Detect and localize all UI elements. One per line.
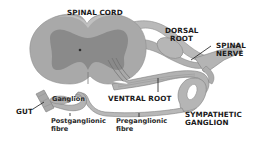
- label-spinal-nerve-line2: NERVE: [216, 50, 246, 58]
- label-dorsal-root: DORSAL ROOT: [165, 27, 199, 43]
- label-ganglion: Ganglion: [52, 96, 85, 103]
- label-preganglionic-line1: Preganglionic: [116, 117, 167, 125]
- label-sympathetic-ganglion-line2: GANGLION: [185, 119, 242, 127]
- label-spinal-nerve: SPINAL NERVE: [216, 42, 246, 58]
- label-gut: GUT: [16, 108, 33, 115]
- label-dorsal-root-line2: ROOT: [165, 35, 199, 43]
- spinal-nerve-diagram: SPINAL CORD DORSAL ROOT SPINAL NERVE VEN…: [0, 0, 259, 141]
- spinal-cord-shape: [30, 14, 146, 84]
- label-ventral-root: VENTRAL ROOT: [108, 95, 171, 102]
- label-sympathetic-ganglion: SYMPATHETIC GANGLION: [185, 111, 242, 127]
- label-preganglionic-line2: fibre: [116, 125, 167, 133]
- label-spinal-cord: SPINAL CORD: [67, 9, 123, 16]
- label-postganglionic-line1: Postganglionic: [51, 117, 106, 125]
- label-postganglionic-fibre: Postganglionic fibre: [51, 117, 106, 133]
- label-postganglionic-line2: fibre: [51, 125, 106, 133]
- label-preganglionic-fibre: Preganglionic fibre: [116, 117, 167, 133]
- sympathetic-ganglion-shape: [170, 78, 206, 113]
